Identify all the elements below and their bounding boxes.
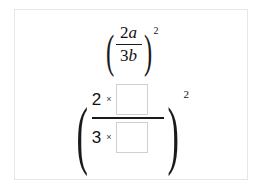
screen-root: ( 2a 3b ) 2 ( 2 × 3 ×: [0, 0, 263, 191]
given-exponent: 2: [154, 26, 159, 36]
numerator-answer-box[interactable]: [116, 84, 148, 115]
given-denominator-variable: b: [129, 46, 138, 65]
answer-denominator-term: 3 ×: [92, 121, 164, 153]
answer-exponent: 2: [183, 89, 189, 100]
given-fraction: 2a 3b: [116, 23, 142, 65]
given-open-paren-icon: (: [105, 28, 113, 75]
answer-numerator-coefficient: 2: [92, 91, 101, 108]
given-close-paren-icon: ): [143, 28, 151, 75]
given-fraction-denominator: 3b: [118, 45, 139, 66]
given-numerator-coefficient: 2: [120, 23, 129, 42]
given-expression: ( 2a 3b ) 2: [15, 23, 247, 65]
given-denominator-coefficient: 3: [120, 46, 129, 65]
answer-fraction: 2 × 3 ×: [92, 83, 164, 153]
denominator-answer-box[interactable]: [116, 122, 148, 153]
math-problem-card: ( 2a 3b ) 2 ( 2 × 3 ×: [14, 9, 248, 180]
given-numerator-variable: a: [129, 23, 138, 42]
answer-expression: ( 2 × 3 × ) 2: [15, 83, 247, 153]
multiplication-icon-denominator: ×: [106, 133, 111, 142]
answer-open-paren-icon: (: [77, 98, 88, 174]
answer-denominator-coefficient: 3: [92, 129, 101, 146]
multiplication-icon-numerator: ×: [106, 95, 111, 104]
answer-numerator-term: 2 ×: [92, 83, 164, 115]
given-fraction-numerator: 2a: [118, 23, 139, 44]
answer-fraction-bar: [92, 117, 164, 119]
answer-close-paren-icon: ): [167, 98, 178, 174]
